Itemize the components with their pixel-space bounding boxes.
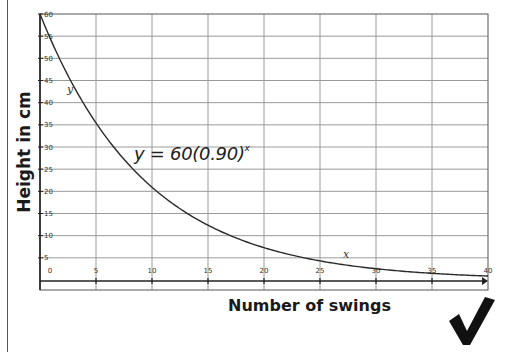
y-tick-label: 45 — [44, 77, 53, 85]
x-tick-label: 0 — [48, 267, 52, 275]
grid — [40, 14, 488, 290]
equation-label: y = 60(0.90)x — [134, 143, 250, 164]
y-tick-label: 60 — [44, 11, 53, 19]
x-tick-label: 10 — [148, 267, 157, 275]
x-tick-label: 20 — [260, 267, 269, 275]
y-tick-label: 35 — [44, 121, 53, 129]
x-tick-label: 25 — [316, 267, 325, 275]
y-axis-label: Height in cm — [14, 91, 34, 213]
x-axis-arrow — [482, 277, 488, 285]
x-tick-label: 40 — [484, 267, 493, 275]
x-tick-label: 5 — [94, 267, 98, 275]
equation-text: y = 60(0.90) — [134, 143, 245, 164]
curve-label-x: x — [343, 248, 349, 261]
axes — [38, 14, 488, 290]
y-tick-label: 5 — [44, 254, 48, 262]
y-tick-label: 20 — [44, 188, 53, 196]
y-tick-label: 25 — [44, 166, 53, 174]
y-tick-label: 50 — [44, 55, 53, 63]
equation-exponent: x — [245, 143, 250, 153]
checkmark-icon — [449, 297, 495, 345]
y-tick-label: 15 — [44, 210, 53, 218]
y-tick-label: 30 — [44, 144, 53, 152]
x-axis-label: Number of swings — [228, 296, 391, 315]
y-tick-label: 40 — [44, 99, 53, 107]
y-tick-label: 10 — [44, 232, 53, 240]
x-tick-label: 15 — [204, 267, 213, 275]
curve-label-y: y — [67, 83, 73, 96]
